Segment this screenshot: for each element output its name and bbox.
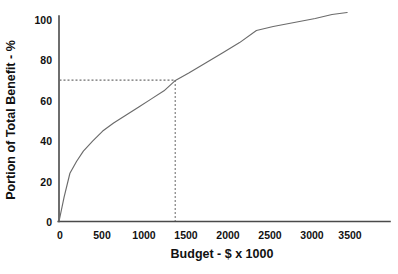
y-tick-label-40: 40 <box>40 135 52 147</box>
y-tick-label-60: 60 <box>40 95 52 107</box>
x-tick-label-500: 500 <box>93 229 111 241</box>
x-tick-label-1000: 1000 <box>132 229 156 241</box>
chart-canvas: 100 80 60 40 20 0 0 500 1000 1500 2000 2… <box>0 0 398 274</box>
x-tick-label-0: 0 <box>57 229 63 241</box>
y-tick-label-20: 20 <box>40 176 52 188</box>
y-tick-label-80: 80 <box>40 54 52 66</box>
y-tick-label-100: 100 <box>34 14 52 26</box>
y-tick-label-0: 0 <box>46 216 52 228</box>
x-tick-label-3000: 3000 <box>300 229 324 241</box>
chart-figure: 100 80 60 40 20 0 0 500 1000 1500 2000 2… <box>0 0 398 274</box>
x-tick-label-2000: 2000 <box>216 229 240 241</box>
x-tick-label-3500: 3500 <box>338 229 362 241</box>
benefit-curve <box>59 12 347 221</box>
x-tick-label-1500: 1500 <box>174 229 198 241</box>
x-axis-title: Budget - $ x 1000 <box>171 247 274 261</box>
x-tick-label-2500: 2500 <box>258 229 282 241</box>
y-axis-title: Portion of Total Benefit - % <box>4 40 18 199</box>
